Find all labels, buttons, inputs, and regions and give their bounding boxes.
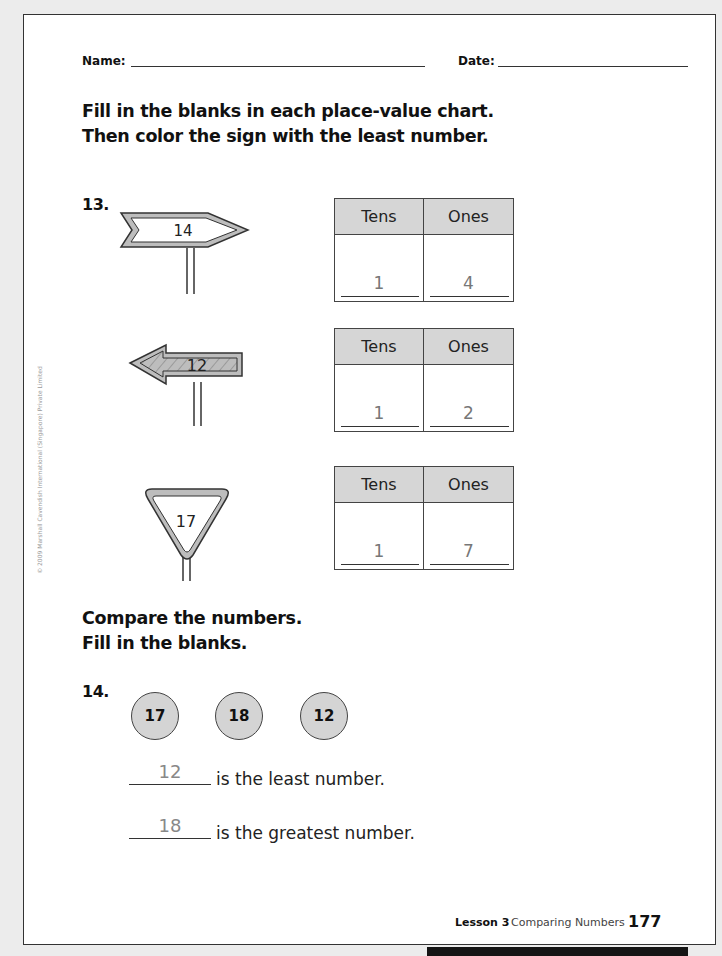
number-circle: 12 (300, 692, 348, 740)
number-circle: 18 (215, 692, 263, 740)
sign-arrow-left[interactable]: 12 (128, 342, 278, 427)
instruction-2: Compare the numbers. Fill in the blanks. (82, 606, 302, 656)
worksheet-page: Name: Date: Fill in the blanks in each p… (23, 14, 716, 945)
tens-cell[interactable]: 1 (335, 235, 424, 301)
ones-header: Ones (424, 199, 513, 235)
tens-value: 1 (335, 403, 423, 423)
tens-cell[interactable]: 1 (335, 365, 424, 431)
question-number-13: 13. (82, 195, 109, 214)
place-value-chart: Tens Ones 1 2 (334, 328, 514, 432)
instruction-line: Fill in the blanks in each place-value c… (82, 99, 494, 124)
page-number: 177 (628, 912, 661, 931)
ones-value: 7 (424, 541, 513, 561)
instruction-line: Compare the numbers. (82, 606, 302, 631)
answer-line (341, 296, 419, 297)
sign-arrow-right[interactable]: 14 (118, 210, 258, 300)
answer-line (341, 564, 419, 565)
answer-line (430, 426, 509, 427)
tens-header: Tens (335, 467, 424, 503)
ones-value: 2 (424, 403, 513, 423)
footer-lesson: Lesson 3 (455, 916, 509, 929)
ones-header: Ones (424, 467, 513, 503)
instruction-line: Then color the sign with the least numbe… (82, 124, 494, 149)
instruction-line: Fill in the blanks. (82, 631, 302, 656)
answer-text: is the greatest number. (216, 823, 415, 843)
name-field[interactable] (131, 66, 425, 67)
answer-value[interactable]: 18 (129, 815, 211, 836)
ones-header: Ones (424, 329, 513, 365)
tens-value: 1 (335, 541, 423, 561)
answer-line (430, 296, 509, 297)
answer-line (129, 784, 211, 785)
ones-cell[interactable]: 7 (424, 503, 513, 569)
scan-edge-bar (427, 947, 688, 956)
name-label: Name: (82, 54, 126, 68)
place-value-chart: Tens Ones 1 7 (334, 466, 514, 570)
number-circle: 17 (131, 692, 179, 740)
tens-header: Tens (335, 329, 424, 365)
instruction-1: Fill in the blanks in each place-value c… (82, 99, 494, 149)
ones-cell[interactable]: 4 (424, 235, 513, 301)
sign-number: 17 (176, 512, 196, 531)
ones-cell[interactable]: 2 (424, 365, 513, 431)
tens-header: Tens (335, 199, 424, 235)
date-label: Date: (458, 54, 495, 68)
answer-line (430, 564, 509, 565)
sign-triangle[interactable]: 17 (140, 487, 240, 587)
sign-number: 12 (187, 356, 207, 375)
answer-value[interactable]: 12 (129, 761, 211, 782)
answer-text: is the least number. (216, 769, 385, 789)
answer-line (341, 426, 419, 427)
question-number-14: 14. (82, 682, 109, 701)
copyright-notice: © 2009 Marshall Cavendish International … (36, 366, 43, 574)
sign-number: 14 (173, 222, 192, 240)
date-field[interactable] (498, 66, 688, 67)
tens-value: 1 (335, 273, 423, 293)
ones-value: 4 (424, 273, 513, 293)
place-value-chart: Tens Ones 1 4 (334, 198, 514, 302)
footer-title: Comparing Numbers (511, 916, 625, 929)
answer-line (129, 838, 211, 839)
tens-cell[interactable]: 1 (335, 503, 424, 569)
